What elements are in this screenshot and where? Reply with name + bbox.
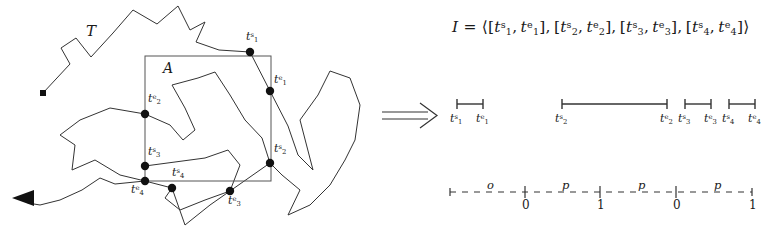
point-label-t2s: ts2 <box>274 142 286 156</box>
bar-4 <box>729 99 755 109</box>
bar-4-start-label: ts4 <box>722 112 734 126</box>
bar-2 <box>562 99 667 109</box>
bar-3-end-label: te3 <box>704 112 717 126</box>
crossing-dot-t1s <box>246 48 254 56</box>
point-label-t1s: ts1 <box>246 30 258 44</box>
bar-1-end-label: te1 <box>476 112 489 126</box>
formula-close-bracket: ⟩ <box>743 18 749 36</box>
trajectory-label: T <box>86 22 96 40</box>
timeline-tick-number-4: 1 <box>749 198 757 212</box>
interval-set-formula: I = ⟨[ts1, te1], [ts2, te2], [ts3, te3],… <box>452 18 749 37</box>
point-label-t3e: te3 <box>228 194 241 208</box>
crossing-dot-t3s <box>141 162 149 170</box>
timeline-tick-number-2: 1 <box>597 198 605 212</box>
timeline-tick-number-1: 0 <box>522 198 530 212</box>
timeline-tick-number-3: 0 <box>673 198 681 212</box>
interval-bars-layer <box>457 99 755 109</box>
bar-2-end-label: te2 <box>660 112 673 126</box>
crossing-dot-t2e <box>141 110 149 118</box>
point-label-t3s: ts3 <box>148 145 160 159</box>
timeline-segment-label-2: p <box>638 178 645 192</box>
point-label-t2e: te2 <box>148 92 161 106</box>
bar-1-start-label: ts1 <box>450 112 462 126</box>
timeline-segment-label-3: p <box>714 178 721 192</box>
implication-arrow-icon <box>382 103 437 128</box>
timeline-axis <box>450 186 752 198</box>
formula-lhs-symbol: I <box>452 18 458 36</box>
trajectory-start-marker <box>40 90 46 96</box>
bar-3-start-label: ts3 <box>678 112 690 126</box>
timeline-segment-label-1: p <box>562 178 569 192</box>
bar-1 <box>457 99 483 109</box>
crossing-dot-t2s <box>266 159 274 167</box>
region-label: A <box>163 60 173 76</box>
bar-3 <box>685 99 711 109</box>
point-label-t4e: te4 <box>131 183 144 197</box>
bar-4-end-label: te4 <box>748 112 761 126</box>
formula-equals: = <box>463 18 476 36</box>
trajectory-end-arrowhead <box>12 190 34 206</box>
point-label-t1e: te1 <box>274 73 287 87</box>
formula-interval-list: [ts1, te1], [ts2, te2], [ts3, te3], [ts4… <box>488 18 743 36</box>
trajectory-inner-loop <box>28 150 240 210</box>
bar-2-start-label: ts2 <box>555 112 567 126</box>
point-label-t4s: ts4 <box>172 166 184 180</box>
crossing-dot-t1e <box>266 87 274 95</box>
crossing-dot-t4s <box>168 184 176 192</box>
timeline-segment-label-0: o <box>487 178 494 192</box>
